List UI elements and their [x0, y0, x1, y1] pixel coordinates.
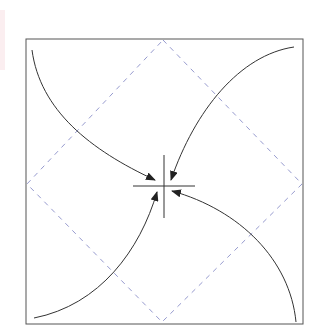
crosshair — [133, 155, 195, 218]
arrow-bottom-right — [172, 191, 296, 322]
arrow-top-right — [171, 47, 294, 180]
pinwheel-diagram — [0, 0, 319, 335]
arrow-bottom-left — [34, 192, 157, 318]
arrow-top-left — [32, 50, 155, 180]
